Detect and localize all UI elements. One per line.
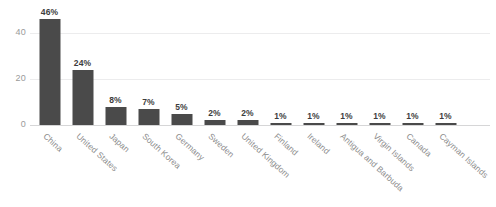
bar-value-label: 1% — [406, 111, 419, 121]
y-tick-label-40: 40 — [4, 27, 26, 37]
bar[interactable] — [72, 70, 93, 125]
bar-value-label: 5% — [175, 102, 188, 112]
x-label-slot: Cayman Islands — [429, 127, 462, 207]
x-label-slot: South Korea — [132, 127, 165, 207]
bar-value-label: 1% — [307, 111, 320, 121]
bar-band: 7% — [132, 6, 165, 125]
gridline-0-baseline — [30, 125, 490, 126]
x-axis-category-label: Finland — [272, 131, 300, 158]
bar-band: 5% — [165, 6, 198, 125]
bar[interactable] — [237, 120, 258, 125]
bar-value-label: 1% — [274, 111, 287, 121]
bar-chart: 40 20 0 46% 24% 8% 7% — [0, 0, 496, 207]
x-label-slot: China — [33, 127, 66, 207]
bar[interactable] — [39, 19, 60, 125]
bar-value-label: 24% — [74, 58, 91, 68]
x-axis-category-label: Ireland — [305, 131, 332, 156]
bar-band: 2% — [231, 6, 264, 125]
x-axis-category-label: China — [41, 131, 65, 154]
bar-band: 2% — [198, 6, 231, 125]
x-axis-labels: China United States Japan South Korea Ge… — [30, 127, 490, 207]
bar-value-label: 1% — [340, 111, 353, 121]
bar-value-label: 7% — [142, 97, 155, 107]
bar[interactable] — [105, 107, 126, 125]
bar-band: 24% — [66, 6, 99, 125]
bar-value-label: 8% — [109, 95, 122, 105]
bar-value-label: 1% — [439, 111, 452, 121]
bar[interactable] — [270, 123, 291, 125]
bar[interactable] — [336, 123, 357, 125]
x-label-slot: United Kingdom — [231, 127, 264, 207]
bar[interactable] — [402, 123, 423, 125]
x-label-slot: Finland — [264, 127, 297, 207]
bar-band: 1% — [396, 6, 429, 125]
bar-band: 8% — [99, 6, 132, 125]
bar[interactable] — [204, 120, 225, 125]
x-label-slot: Germany — [165, 127, 198, 207]
y-tick-label-0: 0 — [4, 119, 26, 129]
x-label-slot: United States — [66, 127, 99, 207]
bar[interactable] — [369, 123, 390, 125]
bar-band: 1% — [429, 6, 462, 125]
bar-value-label: 2% — [208, 108, 221, 118]
plot-area: 46% 24% 8% 7% 5% 2% — [30, 6, 490, 125]
bar[interactable] — [138, 109, 159, 125]
bar-band: 1% — [297, 6, 330, 125]
x-label-slot: Japan — [99, 127, 132, 207]
x-axis-category-label: Japan — [107, 131, 131, 154]
x-label-slot: Virgin Islands — [363, 127, 396, 207]
bar-band: 46% — [33, 6, 66, 125]
x-label-slot: Sweden — [198, 127, 231, 207]
bar-value-label: 46% — [41, 7, 58, 17]
x-label-slot: Canada — [396, 127, 429, 207]
bar-band: 1% — [330, 6, 363, 125]
bar-series: 46% 24% 8% 7% 5% 2% — [30, 6, 490, 125]
bar[interactable] — [303, 123, 324, 125]
y-tick-label-20: 20 — [4, 73, 26, 83]
x-label-slot: Ireland — [297, 127, 330, 207]
bar-band: 1% — [363, 6, 396, 125]
bar[interactable] — [435, 123, 456, 125]
x-axis-category-label: Cayman Islands — [437, 131, 490, 180]
x-label-slot: Antigua and Barbuda — [330, 127, 363, 207]
bar-band: 1% — [264, 6, 297, 125]
bar[interactable] — [171, 114, 192, 125]
bar-value-label: 1% — [373, 111, 386, 121]
bar-value-label: 2% — [241, 108, 254, 118]
